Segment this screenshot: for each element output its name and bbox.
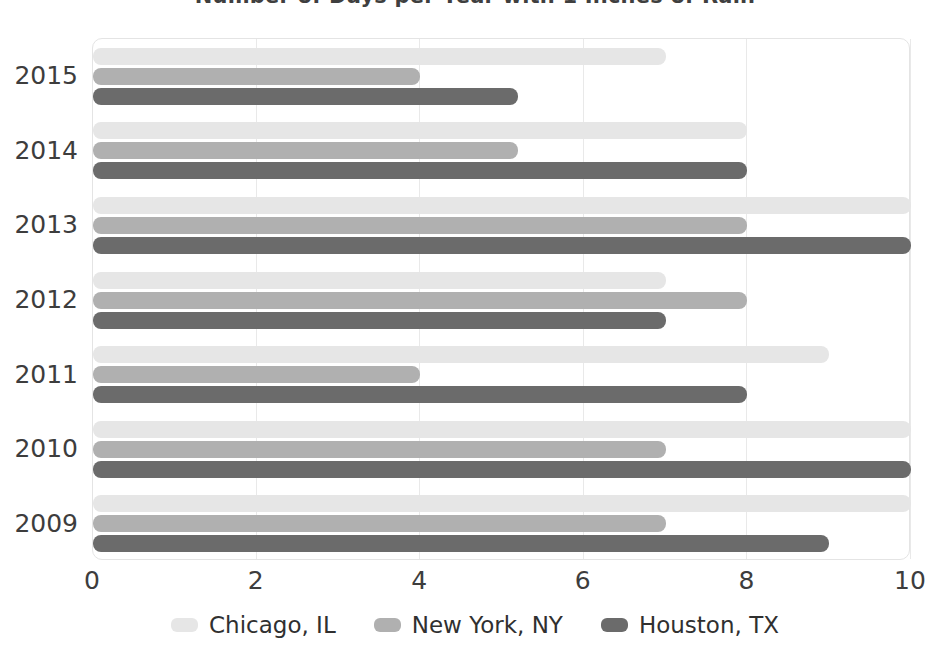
bar[interactable] (93, 122, 747, 139)
y-axis-tick-label: 2010 (0, 434, 78, 463)
bar[interactable] (93, 162, 747, 179)
x-axis-tick-label: 4 (411, 566, 427, 595)
x-axis-tick-label: 6 (575, 566, 591, 595)
bar[interactable] (93, 421, 911, 438)
y-axis-tick-label: 2014 (0, 135, 78, 164)
bar[interactable] (93, 48, 666, 65)
y-axis-tick-label: 2015 (0, 61, 78, 90)
bar[interactable] (93, 346, 829, 363)
y-axis-tick-label: 2012 (0, 285, 78, 314)
x-axis-tick-label: 8 (738, 566, 754, 595)
x-axis-tick-label: 2 (248, 566, 264, 595)
bar[interactable] (93, 366, 420, 383)
legend-swatch-icon (601, 618, 628, 632)
bar[interactable] (93, 535, 829, 552)
bar[interactable] (93, 441, 666, 458)
legend-label: New York, NY (412, 612, 563, 638)
bar[interactable] (93, 461, 911, 478)
bar[interactable] (93, 292, 747, 309)
bar[interactable] (93, 68, 420, 85)
bar[interactable] (93, 386, 747, 403)
bar[interactable] (93, 312, 666, 329)
legend-label: Chicago, IL (209, 612, 336, 638)
bar[interactable] (93, 515, 666, 532)
y-axis: 2015201420132012201120102009 (0, 38, 80, 560)
bar[interactable] (93, 495, 911, 512)
bar[interactable] (93, 217, 747, 234)
x-axis-tick-label: 10 (894, 566, 926, 595)
bar[interactable] (93, 142, 518, 159)
legend-item[interactable]: Chicago, IL (171, 612, 336, 638)
bar-group (93, 421, 909, 478)
bar-group (93, 48, 909, 105)
bar[interactable] (93, 197, 911, 214)
x-axis: 0246810 (0, 566, 950, 606)
bar-group (93, 197, 909, 254)
bar[interactable] (93, 237, 911, 254)
bar[interactable] (93, 88, 518, 105)
gridline (910, 39, 911, 559)
legend-item[interactable]: Houston, TX (601, 612, 779, 638)
chart-legend: Chicago, ILNew York, NYHouston, TX (0, 612, 950, 638)
legend-swatch-icon (171, 618, 198, 632)
chart-title: Number of Days per Year with 1 Inches of… (0, 0, 950, 8)
bar-chart: Number of Days per Year with 1 Inches of… (0, 0, 950, 661)
legend-swatch-icon (374, 618, 401, 632)
y-axis-tick-label: 2013 (0, 210, 78, 239)
bar-group (93, 272, 909, 329)
bar-group (93, 495, 909, 552)
y-axis-tick-label: 2011 (0, 359, 78, 388)
legend-label: Houston, TX (639, 612, 779, 638)
y-axis-tick-label: 2009 (0, 508, 78, 537)
legend-item[interactable]: New York, NY (374, 612, 563, 638)
x-axis-tick-label: 0 (84, 566, 100, 595)
bar-group (93, 122, 909, 179)
bar[interactable] (93, 272, 666, 289)
bar-group (93, 346, 909, 403)
plot-area (92, 38, 910, 560)
